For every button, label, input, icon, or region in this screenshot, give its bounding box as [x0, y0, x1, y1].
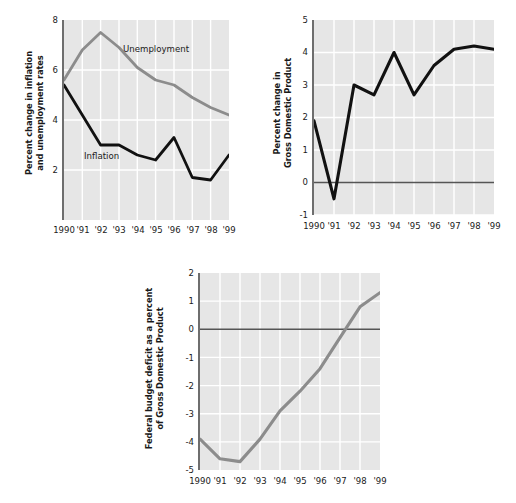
chart3-plot-area: [200, 273, 380, 470]
chart3-series-deficit: [200, 293, 380, 462]
chart2-ytick-4: 4: [290, 47, 308, 57]
chart2-ytick-neg1: -1: [286, 210, 308, 220]
chart3-ytick-1: 1: [176, 296, 194, 306]
chart1-y-axis-title: Percent change in inflation and unemploy…: [24, 13, 45, 213]
chart2-ytick-0: 0: [290, 177, 308, 187]
chart3-y-axis-title-line1: Federal budget deficit as a percent: [144, 261, 155, 476]
chart1-y-axis-line: [62, 20, 64, 220]
chart2-ytick-3: 3: [290, 80, 308, 90]
chart3-y-axis-title: Federal budget deficit as a percent of G…: [144, 261, 165, 476]
chart-inflation-unemployment: Percent change in inflation and unemploy…: [0, 0, 250, 250]
chart1-y-axis-title-line2: and unemployment rates: [35, 13, 46, 213]
chart2-y-axis-line: [312, 20, 314, 215]
chart-gdp-change: Percent change in Gross Domestic Product: [258, 0, 516, 250]
chart-federal-budget-deficit: Federal budget deficit as a percent of G…: [130, 258, 420, 503]
chart1-series-inflation: [64, 85, 229, 180]
chart2-svg: [314, 20, 494, 215]
chart3-ytick-2: 2: [176, 268, 194, 278]
chart2-y-axis-title-line1: Percent change in: [272, 18, 283, 208]
chart3-ytick-neg3: -3: [172, 409, 194, 419]
chart2-xtick-99: '99: [479, 221, 509, 231]
chart3-y-axis-title-line2: of Gross Domestic Product: [155, 261, 166, 476]
chart2-series-gdp: [314, 46, 494, 199]
chart3-y-axis-line: [198, 273, 200, 470]
chart1-label-inflation: Inflation: [84, 151, 119, 161]
chart3-ytick-neg2: -2: [172, 381, 194, 391]
chart3-ytick-0: 0: [176, 324, 194, 334]
chart2-gridlines: [314, 20, 494, 215]
chart2-ytick-2: 2: [290, 112, 308, 122]
chart2-plot-area: [314, 20, 494, 215]
chart3-ytick-neg5: -5: [172, 465, 194, 475]
chart1-xtick-99: '99: [214, 225, 244, 235]
chart3-ytick-neg1: -1: [172, 353, 194, 363]
chart3-svg: [200, 273, 380, 470]
chart1-ytick-8: 8: [40, 15, 58, 25]
chart3-xtick-99: '99: [365, 476, 395, 486]
chart2-ytick-5: 5: [290, 15, 308, 25]
chart1-label-unemployment: Unemployment: [123, 44, 189, 54]
chart2-ytick-1: 1: [290, 145, 308, 155]
chart1-ytick-6: 6: [40, 65, 58, 75]
chart1-ytick-4: 4: [40, 115, 58, 125]
chart1-ytick-2: 2: [40, 165, 58, 175]
chart3-gridlines: [200, 273, 380, 470]
chart1-y-axis-title-line1: Percent change in inflation: [24, 13, 35, 213]
chart3-ytick-neg4: -4: [172, 437, 194, 447]
